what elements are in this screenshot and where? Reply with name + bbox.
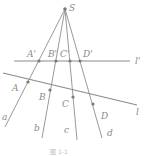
label-ray-a: a xyxy=(2,112,7,122)
label-a: A xyxy=(11,83,19,93)
point-a xyxy=(26,80,29,83)
label-ray-d: d xyxy=(107,128,113,138)
perspectivity-diagram: S l' A' B' C' D' A B C D l a b c d 图 1-1 xyxy=(0,0,147,156)
label-l: l xyxy=(136,107,139,117)
label-c: C xyxy=(62,99,69,109)
ray-b xyxy=(42,9,65,138)
point-b xyxy=(48,88,51,91)
point-c-prime xyxy=(68,59,71,62)
label-b-prime: B' xyxy=(47,49,57,59)
label-b: B xyxy=(38,92,46,102)
label-ray-c: c xyxy=(64,125,69,135)
label-d: D xyxy=(100,111,108,121)
point-a-prime xyxy=(37,59,40,62)
point-d xyxy=(91,102,94,105)
label-c-prime: C' xyxy=(60,49,69,59)
label-s: S xyxy=(69,3,75,13)
ray-a xyxy=(5,9,65,127)
label-ray-b: b xyxy=(34,123,40,133)
label-d-prime: D' xyxy=(82,49,93,59)
point-d-prime xyxy=(78,59,81,62)
line-l xyxy=(3,73,137,105)
point-b-prime xyxy=(54,59,57,62)
label-a-prime: A' xyxy=(26,49,36,59)
point-c xyxy=(71,95,74,98)
figure-caption: 图 1-1 xyxy=(50,148,68,156)
point-s xyxy=(63,7,67,11)
label-l-prime: l' xyxy=(135,56,140,66)
